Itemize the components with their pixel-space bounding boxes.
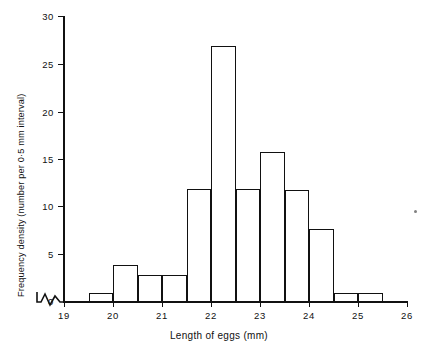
histogram-figure: 30 25 20 15 10 5 0 19 20 21 22 23 24 25 …	[0, 0, 431, 357]
x-tick-24	[309, 301, 310, 307]
histogram-bar	[309, 229, 334, 301]
x-tick-label-20: 20	[99, 310, 127, 321]
y-tick-25	[58, 64, 63, 65]
histogram-bar	[236, 189, 261, 301]
x-tick-23	[260, 301, 261, 307]
x-axis-title: Length of eggs (mm)	[170, 330, 268, 341]
y-axis-line	[63, 16, 65, 303]
x-tick-label-24: 24	[295, 310, 323, 321]
y-tick-label-5: 5	[26, 249, 54, 260]
y-tick-30	[58, 16, 63, 17]
histogram-bar	[162, 275, 187, 302]
x-tick-19	[64, 301, 65, 307]
x-tick-label-25: 25	[344, 310, 372, 321]
x-tick-21	[162, 301, 163, 307]
histogram-bar	[89, 293, 114, 302]
plot-area: 30 25 20 15 10 5 0 19 20 21 22 23 24 25 …	[0, 0, 431, 357]
y-tick-label-0: 0	[26, 296, 54, 307]
y-tick-label-30: 30	[26, 11, 54, 22]
x-axis-line	[63, 301, 408, 303]
x-tick-label-21: 21	[148, 310, 176, 321]
histogram-bar	[187, 189, 212, 301]
y-tick-label-10: 10	[26, 201, 54, 212]
histogram-bar	[285, 190, 310, 301]
x-tick-label-22: 22	[197, 310, 225, 321]
y-tick-label-25: 25	[26, 59, 54, 70]
histogram-bar	[358, 293, 383, 302]
x-tick-26	[407, 301, 408, 307]
y-tick-5	[58, 254, 63, 255]
histogram-bar	[334, 293, 359, 302]
histogram-bar	[260, 152, 285, 301]
scan-speck-artifact	[414, 210, 417, 213]
x-tick-label-19: 19	[50, 310, 78, 321]
x-tick-20	[113, 301, 114, 307]
y-tick-20	[58, 112, 63, 113]
x-tick-label-26: 26	[393, 310, 421, 321]
histogram-bar	[138, 275, 163, 302]
histogram-bar	[211, 46, 236, 301]
x-tick-22	[211, 301, 212, 307]
y-axis-title: Frequency density (number per 0·5 mm int…	[16, 94, 26, 298]
y-tick-label-20: 20	[26, 107, 54, 118]
y-tick-15	[58, 159, 63, 160]
y-tick-label-15: 15	[26, 154, 54, 165]
y-tick-10	[58, 206, 63, 207]
histogram-bar	[113, 265, 138, 301]
x-tick-25	[358, 301, 359, 307]
x-tick-label-23: 23	[246, 310, 274, 321]
